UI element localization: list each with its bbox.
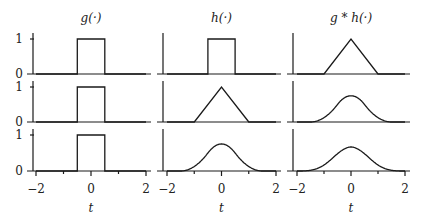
panel-r3-c2: −202t bbox=[157, 129, 281, 215]
column-title-3: g * h(·) bbox=[330, 11, 373, 25]
curve-box bbox=[36, 135, 146, 171]
curve-triangle bbox=[297, 39, 405, 74]
panel-r2-c3 bbox=[287, 81, 410, 122]
curve-box bbox=[36, 87, 146, 122]
curve-quadratic-B-spline bbox=[167, 144, 276, 171]
x-axis-label: t bbox=[349, 201, 354, 215]
curve-box bbox=[36, 39, 146, 74]
panel-r2-c2 bbox=[157, 81, 281, 122]
curve-quadratic-B-spline bbox=[297, 96, 405, 122]
y-tick-label: 0 bbox=[15, 164, 23, 178]
x-axis-label: t bbox=[219, 201, 224, 215]
x-tick-label: 0 bbox=[218, 182, 226, 196]
y-tick-label: 0 bbox=[15, 67, 23, 81]
panel-r1-c1: 10 bbox=[15, 32, 151, 81]
y-tick-label: 1 bbox=[15, 80, 23, 94]
y-tick-label: 0 bbox=[15, 115, 23, 129]
y-tick-label: 1 bbox=[15, 128, 23, 142]
x-axis-label: t bbox=[89, 201, 94, 215]
x-tick-label: 2 bbox=[142, 182, 150, 196]
x-tick-label: 2 bbox=[401, 182, 409, 196]
column-title-1: g(·) bbox=[81, 11, 102, 25]
column-title-2: h(·) bbox=[211, 11, 232, 25]
x-tick-label: 0 bbox=[87, 182, 95, 196]
x-tick-label: −2 bbox=[288, 182, 306, 196]
panel-r2-c1: 10 bbox=[15, 80, 151, 129]
panel-r3-c1: 10−202t bbox=[15, 128, 151, 215]
panel-r1-c3 bbox=[287, 33, 410, 74]
x-tick-label: 2 bbox=[272, 182, 280, 196]
curve-triangle bbox=[167, 87, 276, 122]
panel-r3-c3: −202t bbox=[287, 129, 410, 215]
figure: g(·)h(·)g * h(·) 101010−202t−202t−202t bbox=[0, 0, 423, 224]
panel-r1-c2 bbox=[157, 33, 281, 74]
x-tick-label: −2 bbox=[27, 182, 45, 196]
x-tick-label: 0 bbox=[347, 182, 355, 196]
y-tick-label: 1 bbox=[15, 32, 23, 46]
x-tick-label: −2 bbox=[158, 182, 176, 196]
curve-box bbox=[167, 39, 276, 74]
curve-cubic-B-spline bbox=[297, 147, 405, 171]
